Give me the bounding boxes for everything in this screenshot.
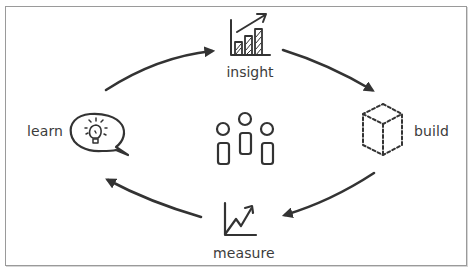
cycle-diagram: insight	[0, 0, 472, 271]
node-label-insight: insight	[226, 64, 274, 80]
line-graph-arrow-icon	[225, 203, 256, 235]
node-label-measure: measure	[213, 245, 275, 261]
arrow-measure-to-learn	[108, 180, 201, 217]
node-label-learn: learn	[27, 123, 63, 139]
node-label-build: build	[414, 123, 449, 139]
arrow-learn-to-insight	[106, 51, 212, 90]
arrow-insight-to-build	[283, 50, 372, 90]
bar-chart-trend-icon	[231, 14, 270, 55]
arrow-build-to-measure	[285, 173, 374, 215]
speech-bubble-lightbulb-icon	[71, 114, 128, 155]
dashed-cube-icon	[363, 104, 402, 155]
team-people-icon	[217, 113, 273, 164]
